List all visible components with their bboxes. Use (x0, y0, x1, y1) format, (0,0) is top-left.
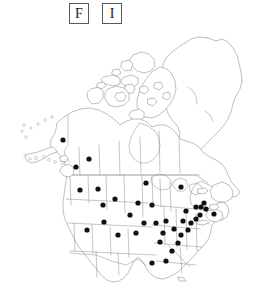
marker-north-dakota (95, 186, 100, 191)
florida-keys (178, 277, 186, 281)
marker-alabama (149, 260, 154, 265)
marker-british-columbia (73, 164, 78, 169)
aleutian-isle-7 (24, 154, 26, 156)
marker-minnesota (112, 196, 117, 201)
prince-of-wales-island (115, 92, 126, 101)
map-canvas (0, 27, 264, 299)
marker-maine (203, 206, 208, 211)
anticosti-island (198, 188, 208, 194)
marker-alaska (60, 137, 65, 142)
marker-utah (84, 227, 89, 232)
marker-south-carolina (169, 248, 174, 253)
marker-west-virginia (171, 226, 176, 231)
marker-pennsylvania (180, 218, 185, 223)
marker-illinois (141, 220, 146, 225)
ellesmere-island (130, 52, 155, 73)
bering-isle-1 (23, 124, 26, 127)
marker-north-carolina (175, 240, 180, 245)
marker-kansas (115, 232, 120, 237)
marker-new-jersey (188, 220, 193, 225)
marker-wisconsin (135, 200, 140, 205)
marker-ohio (163, 218, 168, 223)
banks-island (87, 87, 103, 104)
marker-massachusetts (197, 212, 202, 217)
bering-isle-5 (37, 123, 39, 125)
north-america-map (0, 27, 264, 299)
marker-ontario (143, 180, 148, 185)
marker-new-hampshire (198, 204, 203, 209)
marker-quebec (178, 184, 183, 189)
marker-georgia (163, 258, 168, 263)
marker-tennessee (157, 239, 162, 244)
legend: F I (0, 3, 264, 27)
marker-new-york (183, 208, 188, 213)
aleutian-isle-3 (43, 156, 46, 159)
legend-label-i: I (110, 7, 115, 21)
aleutian-isle-2 (29, 158, 32, 161)
bering-isle-7 (30, 127, 32, 129)
marker-kentucky (160, 230, 165, 235)
bering-isle-2 (21, 130, 23, 132)
legend-box-f: F (69, 3, 89, 24)
aleutian-isle-5 (54, 161, 57, 164)
aleutian-isle-1 (34, 156, 37, 159)
distribution-map-figure: F I (0, 0, 264, 299)
marker-maryland (185, 227, 190, 232)
bering-isle-3 (25, 136, 28, 139)
marker-missouri (133, 230, 138, 235)
marker-virginia (178, 232, 183, 237)
bering-isle-4 (44, 119, 47, 122)
aleutian-isle-4 (48, 159, 51, 162)
marker-wyoming (100, 202, 105, 207)
marker-yukon (86, 156, 91, 161)
marker-vermont (193, 204, 198, 209)
marker-connecticut (193, 216, 198, 221)
alaska-peninsula (25, 147, 57, 163)
marker-iowa (127, 212, 132, 217)
legend-box-i: I (102, 3, 122, 24)
marker-colorado (101, 219, 106, 224)
bering-isle-6 (51, 116, 54, 119)
marker-montana (77, 187, 82, 192)
legend-label-f: F (75, 7, 83, 21)
marker-nova-scotia (211, 211, 216, 216)
aleutian-isle-6 (60, 161, 63, 164)
marker-michigan (149, 202, 154, 207)
marker-indiana (153, 220, 158, 225)
